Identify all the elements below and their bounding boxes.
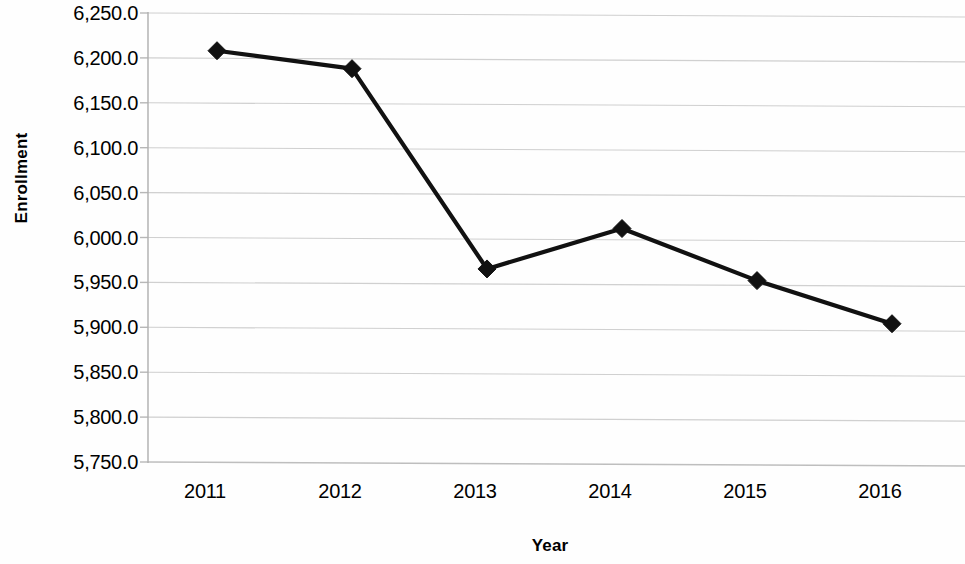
data-point-marker bbox=[883, 315, 901, 333]
gridline bbox=[148, 148, 965, 152]
x-axis-title: Year bbox=[0, 536, 965, 556]
plot-area bbox=[0, 0, 965, 564]
y-axis-ticks bbox=[140, 13, 148, 462]
enrollment-line-chart: Enrollment 6,250.06,200.06,150.06,100.06… bbox=[0, 0, 965, 564]
data-point-marker bbox=[208, 42, 226, 60]
gridline bbox=[148, 103, 965, 107]
data-markers bbox=[208, 42, 901, 333]
gridlines bbox=[148, 13, 965, 466]
gridline bbox=[148, 462, 965, 466]
gridline bbox=[148, 238, 965, 242]
gridline bbox=[148, 282, 965, 286]
gridline bbox=[148, 13, 965, 17]
gridline bbox=[148, 417, 965, 421]
gridline bbox=[148, 372, 965, 376]
gridline bbox=[148, 193, 965, 197]
data-point-marker bbox=[613, 220, 631, 238]
data-point-marker bbox=[748, 272, 766, 290]
gridline bbox=[148, 327, 965, 331]
